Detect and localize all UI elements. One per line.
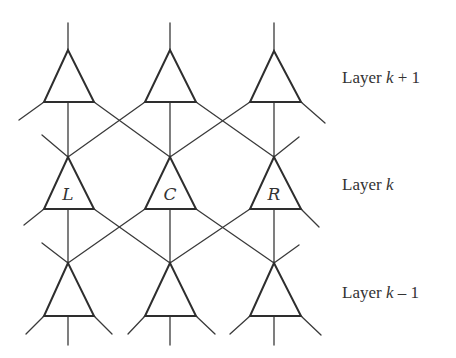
node-triangle (145, 50, 196, 102)
layer-label-top: Layer k + 1 (342, 68, 420, 88)
layer-label-suffix: – 1 (393, 283, 419, 302)
layer-label-bottom: Layer k – 1 (342, 283, 419, 303)
node-label-l: L (61, 184, 73, 204)
cross-connectors-upper (19, 102, 325, 157)
node-label-r: R (267, 184, 281, 204)
layer-label-prefix: Layer (342, 68, 386, 87)
node-triangle (145, 263, 196, 316)
layer-bottom-nodes (44, 263, 301, 316)
layer-label-var: k (386, 175, 394, 194)
node-label-c: C (163, 184, 176, 204)
layer-label-prefix: Layer (342, 283, 386, 302)
node-triangle (250, 51, 301, 102)
node-triangle (44, 263, 94, 316)
layer-label-prefix: Layer (342, 175, 386, 194)
layer-label-suffix: + 1 (393, 68, 420, 87)
layer-label-middle: Layer k (342, 175, 393, 195)
layer-top-nodes (44, 50, 301, 102)
node-triangle (44, 50, 94, 102)
bottom-stubs (26, 316, 321, 335)
layer-middle-nodes: L C R (44, 157, 301, 209)
node-triangle (250, 263, 301, 316)
